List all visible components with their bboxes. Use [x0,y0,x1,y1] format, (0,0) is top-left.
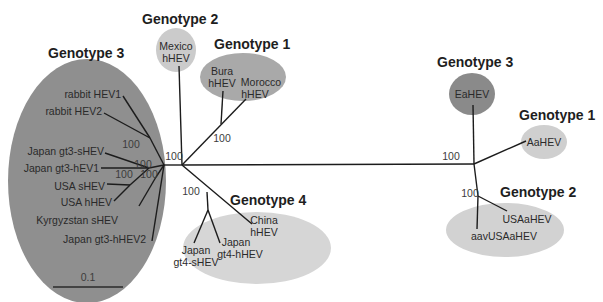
leaf-label: Mexico [159,40,192,52]
bootstrap-value: 100 [165,150,183,162]
leaf-label: Bura [211,65,233,77]
leaf-label: Japan [182,244,211,256]
bootstrap-value: 100 [140,168,158,180]
leaf-label: EaHEV [455,88,489,100]
leaf-label: hHEV [208,77,235,89]
leaf-label: gt4-hHEV [217,248,263,260]
phylogenetic-tree: Genotype 3 Genotype 2 Genotype 1 Genotyp… [0,0,603,302]
leaf-label: Morocco [241,76,281,88]
leaf-label: hHEV [241,88,268,100]
clade-title-genotype-2-human: Genotype 2 [142,11,218,27]
clade-title-genotype-3-avian: Genotype 3 [437,54,513,70]
clade-title-genotype-1-avian: Genotype 1 [519,107,595,123]
leaf-label: rabbit HEV1 [64,88,121,100]
bootstrap-value: 100 [115,168,133,180]
leaf-label: gt4-sHEV [174,256,219,268]
leaf-label: Japan gt3-sHEV [28,145,104,157]
bootstrap-value: 100 [122,138,140,150]
clade-title-genotype-4-human: Genotype 4 [230,192,306,208]
leaf-label: Japan gt3-hHEV2 [63,233,146,245]
bootstrap-value: 100 [442,150,460,162]
bootstrap-value: 100 [182,185,200,197]
leaf-label: USA hHEV [61,196,112,208]
clade-title-genotype-3-human: Genotype 3 [48,45,124,61]
leaf-label: China [250,214,278,226]
bootstrap-value: 100 [213,132,231,144]
leaf-label: USA sHEV [54,180,105,192]
clade-title-genotype-2-avian: Genotype 2 [500,184,576,200]
clade-title-genotype-1-human: Genotype 1 [214,36,290,52]
leaf-label: Japan gt3-hEV1 [24,162,99,174]
leaf-label: USAaHEV [502,213,551,225]
leaf-label: Kyrgyzstan sHEV [36,214,118,226]
leaf-label: AaHEV [527,136,561,148]
leaf-label: Japan [222,236,251,248]
scale-bar-label: 0.1 [81,271,96,283]
leaf-label: aavUSAaHEV [471,230,537,242]
leaf-label: hHEV [162,52,189,64]
bootstrap-value: 100 [461,187,479,199]
leaf-label: hHEV [250,226,277,238]
leaf-label: rabbit HEV2 [45,105,102,117]
